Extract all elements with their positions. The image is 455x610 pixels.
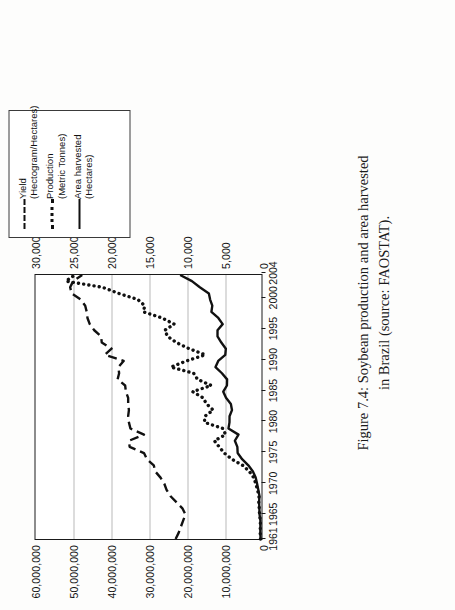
legend-label: Production(Metric Tonnes) [43, 134, 65, 199]
y-axis-tick-label: 50,000,000 [67, 545, 79, 599]
y-axis-tick-label: 20,000,000 [181, 545, 193, 599]
legend: Yield(Hectogram/Hectares)Production(Metr… [8, 110, 130, 238]
plot-area: 010,000,00020,000,00030,000,00040,000,00… [34, 274, 262, 540]
legend-item: Yield(Hectogram/Hectares) [16, 119, 38, 229]
x-axis-tick-label: 1985 [266, 379, 278, 402]
secondary-y-axis-tick-label: 30,000 [29, 236, 41, 269]
legend-series-unit: (Hectares) [82, 135, 93, 199]
x-axis-tick [261, 328, 265, 329]
y-axis-tick-label: 40,000,000 [105, 545, 117, 599]
y-axis-tick-label: 60,000,000 [29, 545, 41, 599]
figure-caption: Figure 7.4: Soybean production and area … [352, 88, 393, 518]
series-lines [35, 275, 261, 539]
scanned-figure-page: 010,000,00020,000,00030,000,00040,000,00… [0, 0, 455, 610]
y-axis-tick-label: 10,000,000 [219, 545, 231, 599]
x-axis-tick-label: 1975 [266, 441, 278, 464]
legend-series-unit: (Metric Tonnes) [55, 134, 66, 199]
legend-series-unit: (Hectogram/Hectares) [27, 106, 38, 199]
secondary-y-axis-tick-label: 25,000 [67, 236, 79, 269]
legend-series-name: Area harvested [71, 135, 82, 199]
series-line [70, 275, 185, 539]
x-axis-tick-label: 1980 [266, 410, 278, 433]
series-line [180, 275, 260, 539]
x-axis-tick-label: 1995 [266, 317, 278, 340]
legend-series-name: Yield [16, 178, 27, 199]
x-axis-tick [261, 420, 265, 421]
legend-line-solid-icon [73, 199, 85, 229]
chart: 010,000,00020,000,00030,000,00040,000,00… [18, 257, 318, 602]
caption-line-2: in Brazil (source: FAOSTAT). [373, 88, 394, 518]
legend-item: Production(Metric Tonnes) [43, 119, 65, 229]
x-axis-tick [261, 272, 265, 273]
legend-item: Area harvested(Hectares) [71, 119, 93, 229]
legend-label: Area harvested(Hectares) [71, 135, 93, 199]
legend-line-dotted-icon [45, 199, 57, 229]
x-axis-tick-label: 1970 [266, 472, 278, 495]
x-axis-tick [261, 513, 265, 514]
caption-line-1: Figure 7.4: Soybean production and area … [352, 88, 373, 518]
x-axis-tick [261, 359, 265, 360]
legend-line-dashed-icon [18, 199, 30, 229]
legend-series-name: Production [43, 154, 54, 199]
secondary-y-axis-tick-label: 20,000 [105, 236, 117, 269]
x-axis-tick-label: 1961 [266, 527, 278, 550]
secondary-y-axis-tick-label: 15,000 [143, 236, 155, 269]
x-axis-tick-label: 1990 [266, 348, 278, 371]
rotated-content: 010,000,00020,000,00030,000,00040,000,00… [0, 0, 455, 610]
x-axis-tick [261, 482, 265, 483]
x-axis-tick [261, 451, 265, 452]
secondary-y-axis-tick-label: 5,000 [219, 242, 231, 269]
x-axis-tick [261, 538, 265, 539]
x-axis-tick [261, 390, 265, 391]
legend-label: Yield(Hectogram/Hectares) [16, 106, 38, 199]
x-axis-tick [261, 297, 265, 298]
secondary-y-axis-tick-label: 10,000 [181, 236, 193, 269]
x-axis-tick-label: 2000 [266, 286, 278, 309]
x-axis-tick-label: 2004 [266, 261, 278, 284]
x-axis-tick-label: 1965 [266, 503, 278, 526]
y-axis-tick-label: 30,000,000 [143, 545, 155, 599]
